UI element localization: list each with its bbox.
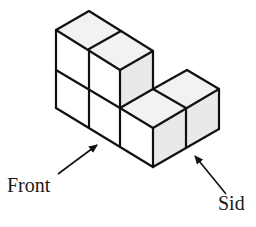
front-arrow bbox=[58, 145, 97, 174]
side-arrow bbox=[195, 156, 226, 194]
cube-structure-diagram: Front Sid bbox=[0, 0, 256, 227]
front-label: Front bbox=[7, 174, 51, 196]
labels: Front Sid bbox=[7, 145, 245, 214]
side-label: Sid bbox=[218, 192, 245, 214]
